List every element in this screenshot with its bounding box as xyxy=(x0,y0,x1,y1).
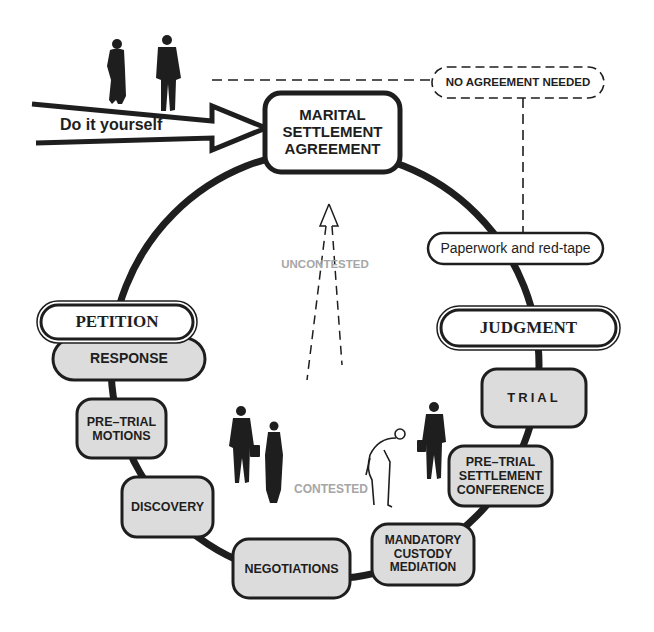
contested-label: CONTESTED xyxy=(286,482,376,498)
mediation-line-1: MANDATORY xyxy=(385,534,461,547)
mediation-line-3: MEDIATION xyxy=(390,561,456,574)
pre-trial-motions-line-2: MOTIONS xyxy=(92,429,150,443)
no-agreement-needed-label: NO AGREEMENT NEEDED xyxy=(432,67,604,98)
man-with-briefcase-right-icon xyxy=(417,402,446,479)
mandatory-custody-mediation-label: MANDATORY CUSTODY MEDIATION xyxy=(372,524,474,585)
settlement-line-2: SETTLEMENT xyxy=(459,469,542,483)
marital-line-1: MARITAL xyxy=(299,107,365,124)
woman-in-dress-center-icon xyxy=(265,422,283,504)
uncontested-dashed-arrow xyxy=(307,204,342,380)
uncontested-label: UNCONTESTED xyxy=(265,256,385,272)
marital-line-2: SETTLEMENT xyxy=(283,124,383,141)
petition-label: PETITION xyxy=(37,301,197,343)
pre-trial-motions-label: PRE–TRIAL MOTIONS xyxy=(77,399,166,458)
marital-settlement-agreement-label: MARITAL SETTLEMENT AGREEMENT xyxy=(265,93,400,172)
paperwork-label: Paperwork and red-tape xyxy=(428,233,603,264)
pre-trial-settlement-conference-label: PRE–TRIAL SETTLEMENT CONFERENCE xyxy=(449,446,552,506)
do-it-yourself-label: Do it yourself xyxy=(60,114,210,136)
trial-label: TRIAL xyxy=(482,369,586,427)
mediation-line-2: CUSTODY xyxy=(394,548,452,561)
man-with-briefcase-left-icon xyxy=(229,406,260,483)
woman-silhouette-top-icon xyxy=(107,39,126,104)
judgment-label: JUDGMENT xyxy=(437,306,620,350)
discovery-label: DISCOVERY xyxy=(122,477,213,537)
marital-line-3: AGREEMENT xyxy=(285,141,381,158)
settlement-line-3: CONFERENCE xyxy=(457,483,545,497)
negotiations-label: NEGOTIATIONS xyxy=(233,539,350,598)
pre-trial-motions-line-1: PRE–TRIAL xyxy=(87,415,156,429)
settlement-line-1: PRE–TRIAL xyxy=(466,455,535,469)
man-silhouette-top-icon xyxy=(156,35,181,111)
response-label: RESPONSE xyxy=(53,338,205,380)
